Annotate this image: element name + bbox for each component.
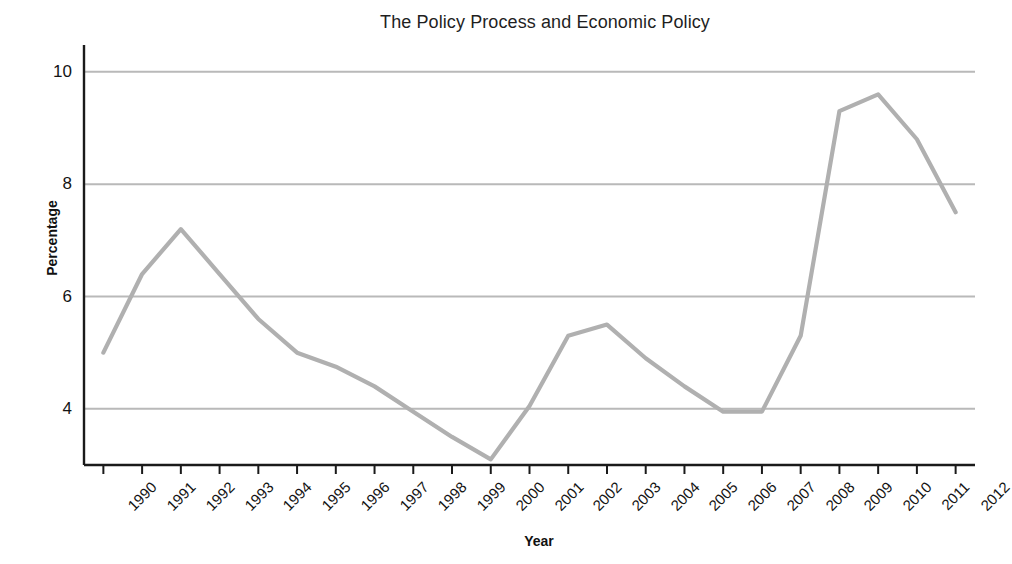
y-tick-label: 10: [32, 63, 72, 80]
y-tick-label: 4: [32, 400, 72, 417]
data-series-line: [103, 94, 955, 459]
x-tick-marks: [103, 465, 955, 474]
y-tick-label: 6: [32, 288, 72, 305]
y-tick-label: 8: [32, 175, 72, 192]
gridlines: [84, 72, 975, 409]
